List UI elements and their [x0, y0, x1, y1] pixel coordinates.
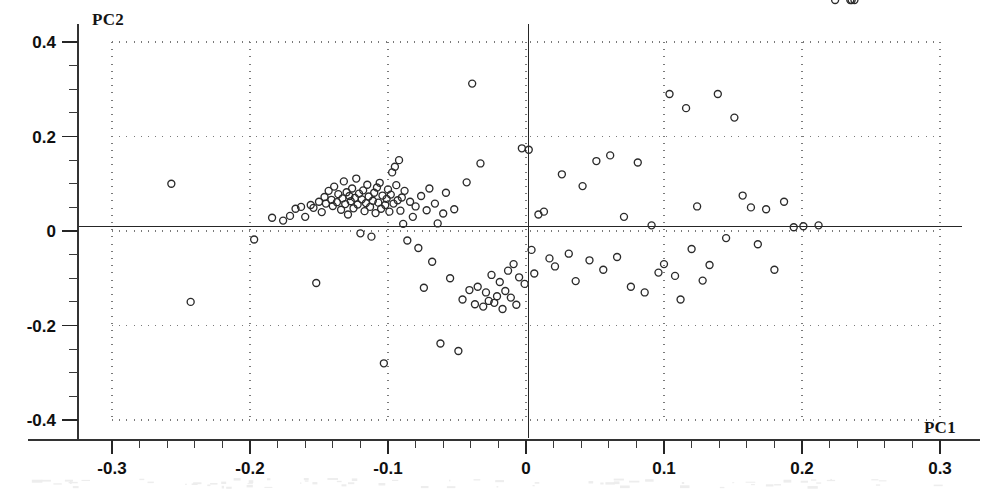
- data-point: [340, 178, 347, 185]
- scan-speck: [774, 484, 781, 485]
- data-point: [572, 278, 579, 285]
- data-point: [505, 267, 512, 274]
- data-point: [540, 208, 547, 215]
- data-point: [442, 189, 449, 196]
- scan-speck: [830, 479, 832, 481]
- scan-speck: [811, 479, 816, 480]
- data-point: [469, 80, 476, 87]
- scan-speck: [234, 478, 241, 481]
- scan-speck: [680, 485, 690, 488]
- data-point: [586, 257, 593, 264]
- data-point: [418, 193, 425, 200]
- data-point: [683, 105, 690, 112]
- data-point: [313, 279, 320, 286]
- axis-text-group: 0.40.20-0.2-0.4-0.3-0.2-0.100.10.20.3PC2…: [27, 10, 956, 478]
- data-point: [655, 269, 662, 276]
- data-point: [477, 160, 484, 167]
- scan-speck: [222, 486, 224, 489]
- scan-speck: [629, 481, 639, 483]
- scan-speck: [605, 482, 614, 484]
- data-point: [318, 209, 325, 216]
- data-point: [699, 277, 706, 284]
- data-point: [706, 262, 713, 269]
- data-point: [754, 241, 761, 248]
- scan-speck: [53, 483, 61, 484]
- scan-speck: [732, 482, 734, 483]
- scan-speck: [808, 486, 818, 489]
- scan-speck: [816, 482, 821, 483]
- scan-speck: [247, 485, 253, 487]
- x-tick-label: 0.2: [790, 459, 814, 478]
- scan-speck: [352, 478, 358, 481]
- scan-speck: [495, 480, 504, 482]
- data-point: [496, 279, 503, 286]
- scan-speck: [533, 485, 535, 486]
- data-point: [423, 207, 430, 214]
- data-point: [437, 340, 444, 347]
- scan-speck: [497, 486, 499, 487]
- data-point: [747, 204, 754, 211]
- scan-speck: [392, 480, 398, 481]
- scan-speck: [193, 482, 201, 484]
- scan-speck: [300, 482, 301, 484]
- y-tick-label: 0.4: [32, 33, 56, 52]
- scan-speck: [871, 479, 878, 480]
- data-point: [431, 200, 438, 207]
- data-point: [499, 305, 506, 312]
- x-tick-label: 0: [521, 459, 530, 478]
- data-point: [396, 157, 403, 164]
- data-point: [335, 191, 342, 198]
- data-point: [404, 237, 411, 244]
- data-point: [661, 261, 668, 268]
- data-point: [672, 272, 679, 279]
- data-point: [344, 211, 351, 218]
- y-tick-label: 0.2: [32, 128, 56, 147]
- scan-speck: [934, 485, 943, 487]
- data-point: [518, 145, 525, 152]
- scan-speck: [342, 484, 347, 486]
- data-point: [771, 266, 778, 273]
- data-point: [415, 245, 422, 252]
- scan-speck: [614, 481, 620, 484]
- scan-speck: [337, 481, 342, 482]
- scan-speck: [210, 483, 217, 485]
- data-point: [739, 192, 746, 199]
- y-tick-label: 0: [47, 222, 56, 241]
- scan-speck: [267, 478, 270, 480]
- scan-speck: [226, 487, 232, 489]
- scan-speck: [65, 480, 73, 482]
- data-point: [627, 283, 634, 290]
- scan-speck: [720, 487, 725, 488]
- scan-speck: [32, 480, 43, 483]
- scatter-plot-canvas: 0.40.20-0.2-0.4-0.3-0.2-0.100.10.20.3PC2…: [0, 0, 986, 491]
- x-tick-label: 0.3: [928, 459, 952, 478]
- data-point: [482, 289, 489, 296]
- data-point: [815, 222, 822, 229]
- data-point: [420, 284, 427, 291]
- scan-speck: [746, 482, 756, 483]
- data-point: [677, 296, 684, 303]
- data-point: [513, 301, 520, 308]
- data-point: [531, 270, 538, 277]
- x-axis-title: PC1: [924, 418, 956, 437]
- data-point: [440, 210, 447, 217]
- data-point: [641, 289, 648, 296]
- data-point: [558, 171, 565, 178]
- data-point: [349, 185, 356, 192]
- data-point: [368, 233, 375, 240]
- data-point: [364, 181, 371, 188]
- scan-speck: [474, 479, 481, 480]
- scan-speck: [69, 482, 78, 483]
- data-point: [471, 301, 478, 308]
- x-tick-label: -0.1: [373, 459, 402, 478]
- data-point: [426, 185, 433, 192]
- data-point: [474, 283, 481, 290]
- scan-speck: [614, 479, 624, 481]
- y-tick-label: -0.2: [27, 317, 56, 336]
- data-point: [302, 213, 309, 220]
- scan-speck: [682, 482, 684, 484]
- scan-speck: [139, 479, 144, 480]
- data-point: [648, 222, 655, 229]
- data-point: [455, 348, 462, 355]
- data-point: [393, 182, 400, 189]
